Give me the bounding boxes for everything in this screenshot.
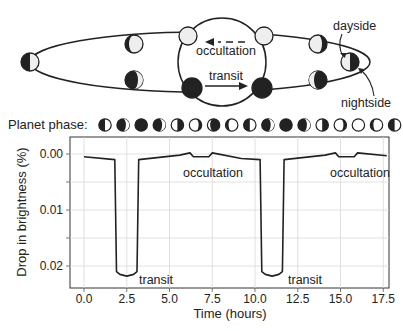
orbit-diagram: occultation transit	[21, 18, 391, 110]
planet-full-icon	[255, 27, 273, 45]
phase-first-quarter-icon	[388, 119, 400, 131]
phase-full-icon	[352, 119, 364, 131]
x-tick-label: 0.0	[76, 292, 93, 306]
phase-gibbous-icon	[189, 119, 201, 131]
x-tick-label: 15.0	[329, 292, 353, 306]
phase-new-icon	[135, 119, 147, 131]
y-tick-label: 0.00	[40, 147, 64, 161]
figure: occultation transit	[0, 0, 403, 331]
planet-gibbous-icon	[309, 35, 327, 53]
phase-crescent-dark-icon	[153, 119, 165, 131]
phase-crescent-dark-icon	[298, 119, 310, 131]
x-tick-label: 7.5	[204, 292, 221, 306]
occultation-annotation: occultation	[183, 166, 243, 180]
planet-crescent-icon	[125, 35, 143, 53]
phase-third-quarter-icon	[316, 119, 328, 131]
phase-first-quarter-icon	[244, 119, 256, 131]
occultation-label: occultation	[196, 44, 256, 58]
x-axis: 0.02.55.07.510.012.515.017.5	[76, 288, 396, 306]
nightside-label: nightside	[341, 96, 391, 110]
planet-new-icon	[182, 78, 202, 98]
x-tick-label: 17.5	[372, 292, 396, 306]
x-tick-label: 10.0	[243, 292, 267, 306]
phase-crescent-dark-icon	[262, 119, 274, 131]
y-axis: 0.000.010.02	[40, 147, 70, 273]
plot-frame	[70, 137, 389, 288]
phase-icons	[99, 119, 401, 131]
nightside-pointer	[361, 70, 374, 96]
x-tick-label: 12.5	[286, 292, 310, 306]
transit-annotation: transit	[288, 273, 323, 287]
transit-annotation: transit	[139, 273, 174, 287]
phase-crescent-light-icon	[370, 119, 382, 131]
occultation-annotation: occultation	[330, 166, 390, 180]
phase-third-quarter-icon	[171, 119, 183, 131]
y-tick-label: 0.02	[40, 259, 64, 273]
y-tick-label: 0.01	[40, 203, 64, 217]
x-tick-label: 5.0	[161, 292, 178, 306]
planet-first-quarter-icon	[21, 53, 39, 71]
phase-gibbous-icon	[334, 119, 346, 131]
y-axis-label: Drop in brightness (%)	[14, 147, 29, 276]
planet-new-icon	[252, 78, 272, 98]
x-axis-label: Time (hours)	[193, 306, 266, 321]
phase-new-icon	[280, 119, 292, 131]
phase-row-label: Planet phase:	[8, 117, 88, 132]
x-tick-label: 2.5	[118, 292, 135, 306]
phase-first-quarter-icon	[99, 119, 111, 131]
planet-crescent-dark-icon	[125, 71, 143, 89]
planet-full-icon	[179, 27, 197, 45]
phase-crescent-light-icon	[226, 119, 238, 131]
phase-gibbous-light-icon	[207, 119, 219, 131]
light-curve-chart: 0.02.55.07.510.012.515.017.5 0.000.010.0…	[14, 137, 395, 321]
transit-label: transit	[209, 69, 244, 83]
phase-row: Planet phase:	[8, 117, 401, 132]
phase-crescent-dark-icon	[117, 119, 129, 131]
dayside-label: dayside	[333, 19, 376, 33]
planet-crescent-dark-icon	[309, 71, 327, 89]
